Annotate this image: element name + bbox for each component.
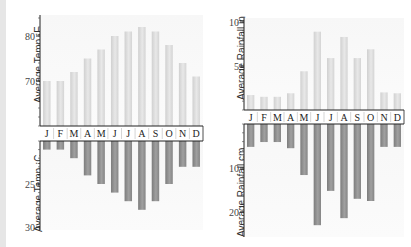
month-label: A: [287, 112, 295, 123]
bar-lower: [260, 124, 267, 142]
month-label: J: [249, 112, 253, 123]
month-label: M: [70, 128, 79, 139]
bar-lower: [165, 141, 172, 184]
month-label: O: [165, 128, 172, 139]
bar-upper: [84, 59, 91, 127]
bar-lower: [247, 124, 254, 147]
bar-upper: [138, 27, 145, 126]
bar-lower: [125, 141, 132, 201]
bar-upper: [125, 32, 132, 127]
bar-upper: [111, 36, 118, 126]
month-label: A: [138, 128, 146, 139]
climate-chart: JFMAMJJASOND70802530JFMAMJJASOND5101020: [0, 0, 411, 247]
bar-lower: [340, 124, 347, 218]
month-label: J: [126, 128, 130, 139]
tick-label: 25: [25, 179, 35, 190]
month-label: J: [45, 128, 49, 139]
bar-lower: [179, 141, 186, 167]
tick-label: 10: [229, 163, 239, 174]
bar-lower: [300, 124, 307, 175]
bar-upper: [354, 58, 361, 110]
bar-lower: [327, 124, 334, 191]
bar-upper: [165, 45, 172, 126]
plot-area-lower: [40, 141, 203, 230]
month-label: A: [84, 128, 92, 139]
month-label: S: [153, 128, 159, 139]
bar-lower: [97, 141, 104, 184]
month-label: D: [394, 112, 401, 123]
bar-upper: [43, 81, 50, 126]
bar-lower: [274, 124, 281, 142]
month-label: N: [179, 128, 186, 139]
bar-lower: [314, 124, 321, 225]
bar-upper: [97, 50, 104, 127]
bar-lower: [84, 141, 91, 175]
bar-upper: [314, 32, 321, 110]
month-label: D: [193, 128, 200, 139]
bar-upper: [327, 58, 334, 110]
plot-area-upper: [244, 18, 404, 110]
tick-label: 5: [234, 61, 239, 72]
tick-label: 20: [229, 207, 239, 218]
bar-lower: [70, 141, 77, 158]
bar-upper: [179, 63, 186, 126]
bar-lower: [138, 141, 145, 210]
bar-upper: [340, 37, 347, 110]
month-label: S: [355, 112, 361, 123]
bar-upper: [152, 32, 159, 127]
bar-lower: [354, 124, 361, 199]
tick-label: 30: [25, 222, 35, 233]
bar-upper: [300, 71, 307, 110]
tick-label: 10: [229, 17, 239, 28]
tick-label: 70: [25, 76, 35, 87]
bar-upper: [287, 93, 294, 110]
bar-lower: [111, 141, 118, 193]
bar-upper: [367, 49, 374, 110]
month-label: A: [340, 112, 348, 123]
month-label: M: [273, 112, 282, 123]
bar-lower: [57, 141, 64, 150]
bar-lower: [367, 124, 374, 201]
plot-area-upper: [40, 15, 203, 126]
bar-upper: [247, 95, 254, 110]
month-label: F: [261, 112, 267, 123]
month-label: O: [367, 112, 374, 123]
plot-area-lower: [244, 124, 404, 237]
month-label: M: [300, 112, 309, 123]
bar-upper: [260, 97, 267, 110]
bar-lower: [287, 124, 294, 148]
month-label: M: [97, 128, 106, 139]
bar-upper: [394, 93, 401, 110]
bar-upper: [192, 77, 199, 127]
bar-lower: [152, 141, 159, 201]
month-label: N: [380, 112, 387, 123]
bar-lower: [43, 141, 50, 150]
bar-lower: [192, 141, 199, 167]
bar-lower: [380, 124, 387, 147]
bar-upper: [70, 72, 77, 126]
bar-upper: [57, 81, 64, 126]
tick-label: 80: [25, 31, 35, 42]
bar-lower: [394, 124, 401, 147]
bar-upper: [274, 97, 281, 110]
month-label: J: [329, 112, 333, 123]
month-label: J: [113, 128, 117, 139]
month-label: J: [315, 112, 319, 123]
month-label: F: [58, 128, 64, 139]
bar-upper: [380, 92, 387, 110]
